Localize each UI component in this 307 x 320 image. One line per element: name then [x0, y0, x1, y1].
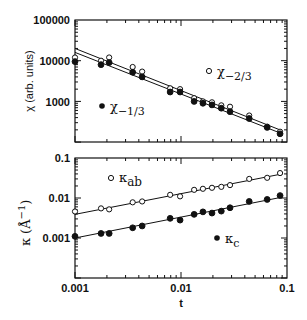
bottom-panel: 0.1 0.01 0.001 0.001 0.01 0.1 t κ(Å−1) κ… — [16, 152, 295, 309]
top-data-points — [72, 55, 283, 137]
filled-circle-data-point — [98, 62, 104, 68]
bottom-fit-lines — [75, 174, 282, 238]
open-circle-data-point — [192, 187, 197, 192]
open-circle-data-point — [98, 206, 103, 211]
bottom-ytick-0.01: 0.01 — [49, 192, 70, 204]
top-ytick-1000: 1000 — [46, 96, 70, 108]
open-circle-data-point — [107, 207, 112, 212]
open-circle-data-point — [265, 175, 270, 180]
open-circle-data-point — [140, 69, 145, 74]
legend-kappa-ab: κab — [119, 170, 142, 189]
filled-circle-data-point — [106, 231, 112, 237]
filled-circle-data-point — [72, 59, 78, 65]
open-circle-data-point — [130, 64, 135, 69]
filled-circle-data-point — [246, 199, 252, 205]
filled-circle-data-point — [227, 205, 233, 211]
open-circle-data-point — [277, 170, 282, 175]
bottom-ytick-0.1: 0.1 — [55, 152, 70, 164]
legend-filled-circle-icon — [99, 103, 105, 109]
open-circle-data-point — [72, 209, 77, 214]
filled-circle-data-point — [98, 231, 104, 237]
filled-circle-data-point — [209, 210, 215, 216]
filled-circle-data-point — [130, 225, 136, 231]
bottom-ytick-0.001: 0.001 — [42, 232, 70, 244]
open-circle-data-point — [168, 192, 173, 197]
filled-circle-data-point — [167, 215, 173, 221]
open-circle-data-point — [177, 194, 182, 199]
filled-circle-data-point — [130, 69, 136, 75]
filled-circle-data-point — [200, 100, 206, 106]
top-axis-ticks — [75, 20, 287, 142]
filled-circle-data-point — [264, 197, 270, 203]
bottom-y-axis-label: κ(Å−1) — [16, 200, 33, 246]
open-circle-data-point — [130, 200, 135, 205]
filled-circle-data-point — [218, 105, 224, 111]
filled-circle-data-point — [209, 102, 215, 108]
legend-chi-minus-2-3: χ−2/3 — [217, 64, 252, 83]
top-y-axis-label: χ (arb. units) — [23, 50, 35, 111]
legend-open-circle-icon — [108, 175, 113, 180]
legend-kappa-c: κc — [225, 231, 239, 250]
legend-chi-minus-1-3: χ−1/3 — [110, 99, 145, 118]
filled-circle-data-point — [139, 223, 145, 229]
filled-circle-data-point — [191, 99, 197, 105]
filled-circle-data-point — [177, 217, 183, 223]
bottom-data-points — [72, 170, 283, 239]
filled-circle-data-point — [264, 124, 270, 130]
filled-circle-data-point — [277, 193, 283, 199]
filled-circle-data-point — [139, 74, 145, 80]
top-panel: 100000 10000 1000 χ (arb. units) χ−2/3 χ… — [23, 14, 287, 142]
filled-circle-data-point — [277, 131, 283, 137]
filled-circle-data-point — [72, 233, 78, 239]
open-circle-data-point — [209, 185, 214, 190]
filled-circle-data-point — [191, 211, 197, 217]
svg-text:κ(Å−1): κ(Å−1) — [16, 200, 33, 246]
top-ytick-10000: 10000 — [39, 55, 70, 67]
open-circle-data-point — [219, 184, 224, 189]
filled-circle-data-point — [218, 208, 224, 214]
xtick-0.1: 0.1 — [279, 282, 294, 294]
xtick-0.01: 0.01 — [170, 282, 191, 294]
filled-circle-data-point — [227, 109, 233, 115]
x-axis-label: t — [179, 297, 183, 309]
filled-circle-data-point — [177, 89, 183, 95]
open-circle-data-point — [140, 199, 145, 204]
top-ytick-100000: 100000 — [33, 14, 70, 26]
legend-filled-circle-icon — [214, 235, 220, 241]
legend-open-circle-icon — [206, 68, 211, 73]
open-circle-data-point — [227, 183, 232, 188]
figure: 100000 10000 1000 χ (arb. units) χ−2/3 χ… — [0, 0, 307, 320]
filled-circle-data-point — [106, 60, 112, 66]
open-circle-data-point — [200, 186, 205, 191]
filled-circle-data-point — [167, 89, 173, 95]
filled-circle-data-point — [200, 209, 206, 215]
xtick-0.001: 0.001 — [61, 282, 89, 294]
filled-circle-data-point — [246, 116, 252, 122]
open-circle-data-point — [247, 176, 252, 181]
